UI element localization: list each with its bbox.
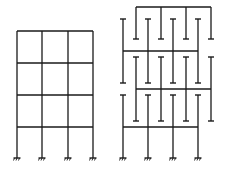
assembled-frame [14, 31, 97, 161]
exploded-frame [120, 7, 215, 161]
fixed-support-icon [39, 158, 46, 161]
fixed-support-icon [145, 158, 152, 161]
fixed-support-icon [14, 158, 21, 161]
structure-diagram [0, 0, 229, 180]
fixed-support-icon [90, 158, 97, 161]
fixed-support-icon [120, 158, 127, 161]
fixed-support-icon [195, 158, 202, 161]
fixed-support-icon [65, 158, 72, 161]
fixed-support-icon [170, 158, 177, 161]
